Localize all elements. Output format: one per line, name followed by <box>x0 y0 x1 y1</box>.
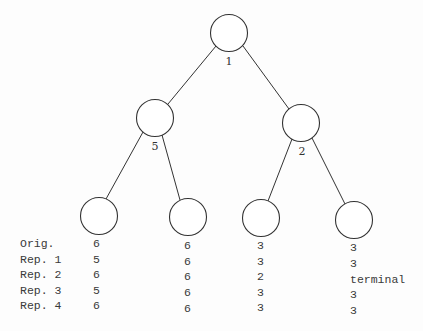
node-right-label: 2 <box>299 146 306 157</box>
cell-leaf1-rep4: 6 <box>93 300 100 312</box>
row-label-rep1: Rep. 1 <box>20 254 61 266</box>
edge-left-leaf1 <box>106 132 143 199</box>
edge-root-right <box>243 46 289 109</box>
cell-leaf1-rep1: 5 <box>93 254 100 266</box>
row-label-orig: Orig. <box>20 238 55 250</box>
edge-right-leaf3 <box>268 139 292 201</box>
cell-leaf1-rep3: 5 <box>93 285 100 297</box>
node-leaf3 <box>243 200 280 237</box>
cell-leaf1-orig: 6 <box>93 238 100 250</box>
cell-leaf4-rep1: 3 <box>350 258 357 270</box>
node-right <box>283 105 320 142</box>
edge-left-leaf2 <box>162 135 180 200</box>
cell-leaf3-rep3: 3 <box>257 287 264 299</box>
node-leaf2 <box>170 199 207 236</box>
cell-leaf2-rep2: 6 <box>184 271 191 283</box>
node-leaf4 <box>336 202 373 239</box>
node-left-label: 5 <box>152 141 159 152</box>
row-label-rep2: Rep. 2 <box>20 269 61 281</box>
cell-leaf2-orig: 6 <box>184 240 191 252</box>
node-root <box>211 15 248 52</box>
cell-leaf2-rep1: 6 <box>184 256 191 268</box>
cell-leaf4-rep2: terminal <box>350 274 405 286</box>
node-left <box>137 100 174 137</box>
cell-leaf2-rep3: 6 <box>184 287 191 299</box>
cell-leaf3-rep2: 2 <box>257 271 264 283</box>
cell-leaf4-orig: 3 <box>350 242 357 254</box>
row-label-rep4: Rep. 4 <box>20 300 61 312</box>
cell-leaf3-rep4: 3 <box>257 302 264 314</box>
edge-root-left <box>168 46 216 104</box>
cell-leaf1-rep2: 6 <box>93 269 100 281</box>
cell-leaf4-rep3: 3 <box>350 289 357 301</box>
row-label-rep3: Rep. 3 <box>20 285 61 297</box>
edge-right-leaf4 <box>312 138 345 204</box>
cell-leaf3-rep1: 3 <box>257 256 264 268</box>
node-root-label: 1 <box>226 56 233 67</box>
cell-leaf2-rep4: 6 <box>184 303 191 315</box>
node-leaf1 <box>81 198 118 235</box>
cell-leaf3-orig: 3 <box>257 240 264 252</box>
cell-leaf4-rep4: 3 <box>350 305 357 317</box>
tree-diagram: 1 5 2 Orig. Rep. 1 Rep. 2 Rep. 3 Rep. 4 … <box>0 0 423 331</box>
